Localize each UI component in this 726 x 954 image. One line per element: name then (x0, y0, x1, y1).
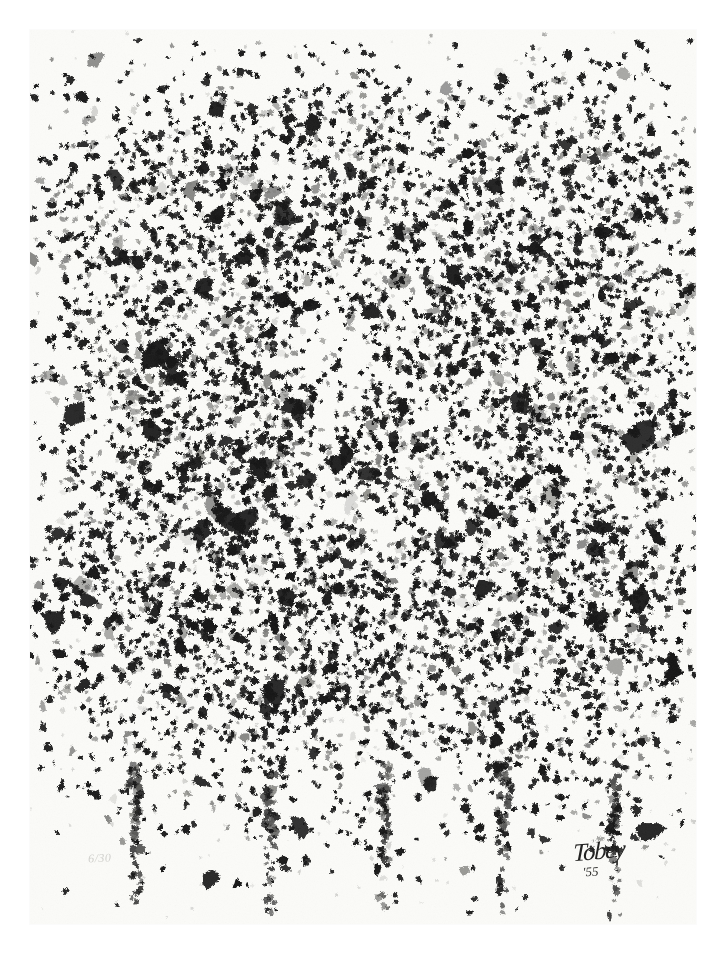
print-image (30, 30, 696, 924)
signature-year: '55 (556, 862, 624, 883)
artwork-frame: Untitled abstract composition (0, 0, 726, 954)
artist-signature: Tobey (573, 836, 625, 866)
paper-sheet: 6/30 Tobey '55 (30, 30, 696, 924)
edition-number: 6/30 (88, 851, 112, 867)
signature-block: Tobey '55 (573, 838, 624, 880)
